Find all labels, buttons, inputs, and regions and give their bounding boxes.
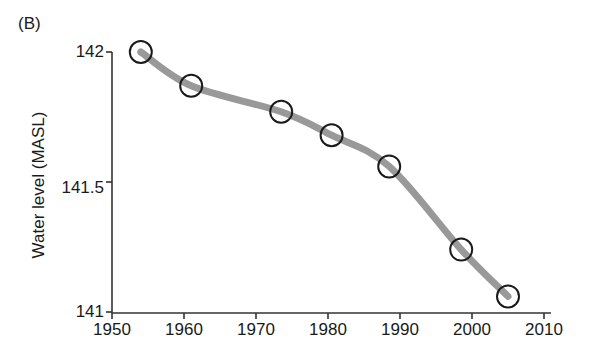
data-point-marker bbox=[270, 101, 292, 123]
x-axis-ticks bbox=[112, 313, 544, 319]
data-point-markers bbox=[130, 41, 519, 307]
data-point-marker bbox=[321, 124, 343, 146]
data-point-marker bbox=[180, 75, 202, 97]
data-point-marker bbox=[450, 239, 472, 261]
plot-area bbox=[0, 0, 589, 359]
figure-panel-b: (B) Water level (MASL) 142 141.5 141 195… bbox=[0, 0, 589, 359]
y-axis-ticks bbox=[106, 52, 112, 312]
data-point-marker bbox=[378, 155, 400, 177]
data-point-marker bbox=[130, 41, 152, 63]
data-point-marker bbox=[497, 285, 519, 307]
